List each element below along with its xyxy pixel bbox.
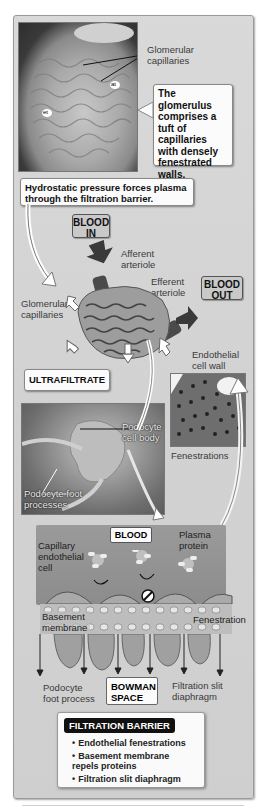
bottom-rule bbox=[22, 805, 244, 806]
glomerulus-sem-photo: at et bbox=[18, 22, 138, 172]
callout-pointer-icon bbox=[136, 100, 156, 120]
blood-in-text: BLOOD IN bbox=[73, 217, 109, 239]
podocyte-feet-illustration bbox=[36, 634, 236, 680]
blood-text: BLOOD bbox=[115, 530, 148, 540]
barrier-item-1: Endothelial fenestrations bbox=[72, 738, 186, 749]
label-et: et bbox=[43, 107, 48, 118]
filtration-barrier-list: Endothelial fenestrations Basement membr… bbox=[72, 738, 186, 786]
blood-in-tag: BLOOD IN bbox=[72, 214, 110, 238]
label-podocyte-foot-processes: Podocyte foot processes bbox=[24, 488, 104, 510]
blood-tag: BLOOD bbox=[110, 527, 152, 543]
barrier-item-3: Filtration slit diaphragm bbox=[72, 774, 186, 785]
filtration-barrier-title: FILTRATION BARRIER bbox=[64, 718, 175, 733]
label-fenestration: Fenestration bbox=[193, 614, 246, 625]
bowman-space-text: BOWMAN SPACE bbox=[111, 681, 156, 703]
label-filtration-slit-diaphragm: Filtration slit diaphragm bbox=[172, 680, 232, 702]
glomerulus-callout: The glomerulus comprises a tuft of capil… bbox=[153, 84, 233, 166]
glomerulus-texture bbox=[19, 23, 137, 171]
label-glomerular-capillaries-top: Glomerular capillaries bbox=[147, 44, 194, 66]
glomerulus-callout-text: The glomerulus comprises a tuft of capil… bbox=[158, 88, 218, 180]
blood-out-tag: BLOOD OUT bbox=[201, 276, 243, 300]
plasma-protein-clusters bbox=[88, 550, 197, 572]
bowman-space-tag: BOWMAN SPACE bbox=[106, 677, 158, 705]
barrier-item-2: Basement membrane repels proteins bbox=[72, 751, 182, 772]
curved-arrow-icon bbox=[18, 200, 58, 290]
ultrafiltrate-text: ULTRAFILTRATE bbox=[29, 374, 105, 385]
label-basement-membrane: Basement membrane bbox=[42, 611, 90, 633]
filtration-barrier-box: FILTRATION BARRIER Endothelial fenestrat… bbox=[57, 712, 205, 788]
ultrafiltrate-tag: ULTRAFILTRATE bbox=[24, 369, 110, 391]
label-plasma-protein: Plasma protein bbox=[179, 529, 219, 551]
flow-arrows-icon bbox=[108, 340, 258, 530]
label-podocyte-foot-process: Podocyte foot process bbox=[43, 682, 98, 704]
label-at: at bbox=[111, 79, 116, 90]
blood-out-text: BLOOD OUT bbox=[204, 279, 240, 301]
